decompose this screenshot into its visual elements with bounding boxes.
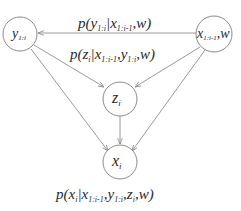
node-y: y1:i xyxy=(3,17,37,51)
label-p-y-given-x: p(y1:i|x1:i-1,w) xyxy=(77,15,151,33)
label-bottom-part-5: 1:i xyxy=(114,195,123,204)
label-bottom-part-0: p(x xyxy=(55,186,75,203)
label-top-part-3: 1:i-1 xyxy=(117,24,133,33)
label-middle-part-5: 1:i xyxy=(127,55,136,64)
label-middle-part-4: ,y xyxy=(117,46,128,62)
label-middle-part-3: 1:i-1 xyxy=(101,55,117,64)
label-bottom-part-6: ,z xyxy=(123,186,133,202)
edge-y-to-x xyxy=(31,49,108,151)
label-p-x-given-history: p(xi|x1:i-1,y1:i,zi,w) xyxy=(55,186,154,204)
node-z: zi xyxy=(103,82,137,116)
label-bottom-part-8: ,w) xyxy=(135,186,154,203)
label-top-part-1: 1:i xyxy=(97,24,106,33)
edge-xw-to-x xyxy=(132,50,205,151)
label-top-part-4: ,w) xyxy=(132,15,151,32)
graphical-model-diagram: y1:i x1:i-1,w zi xi p(y1:i|x1:i-1,w) p(z… xyxy=(0,0,241,211)
label-middle-part-6: ,w) xyxy=(136,46,155,63)
label-top-part-0: p(y xyxy=(77,15,97,32)
label-p-z-given-x-y: p(zi|x1:i-1,y1:i,w) xyxy=(69,46,155,64)
node-y-sub: 1:i xyxy=(18,34,26,42)
label-top-part-2: |x xyxy=(106,15,117,31)
label-bottom-part-4: ,y xyxy=(104,186,115,202)
node-xw-tail: ,w xyxy=(217,26,231,41)
label-middle-part-2: |x xyxy=(91,46,102,62)
node-x-main: x xyxy=(111,152,119,169)
node-xw-sub: 1:i-1 xyxy=(203,34,217,42)
node-x-history-w: x1:i-1,w xyxy=(196,16,232,52)
label-middle-part-0: p(z xyxy=(69,46,88,63)
label-bottom-part-2: |x xyxy=(77,186,88,202)
label-bottom-part-3: 1:i-1 xyxy=(88,195,104,204)
node-x: xi xyxy=(103,145,137,179)
